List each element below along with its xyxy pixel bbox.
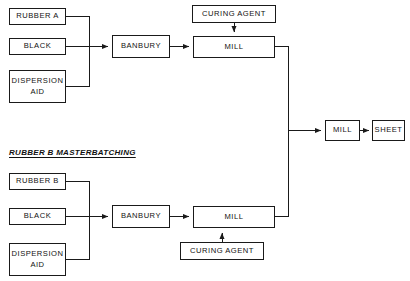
node-rubber-a[interactable]: RUBBER A (9, 8, 66, 25)
node-banbury-bottom[interactable]: BANBURY (112, 205, 170, 228)
node-rubber-b[interactable]: RUBBER B (9, 173, 66, 190)
edge-dispersion-top-to-banbury (66, 47, 89, 87)
edge-dispersion-bottom-to-banbury (66, 217, 89, 260)
node-black-top[interactable]: BLACK (9, 38, 66, 55)
flowchart-canvas: RUBBER A BLACK DISPERSION AID BANBURY CU… (0, 0, 410, 281)
node-mill-final[interactable]: MILL (325, 120, 360, 141)
node-curing-agent-bottom[interactable]: CURING AGENT (180, 242, 264, 260)
edge-mill-bottom-to-trunk (275, 131, 288, 217)
node-dispersion-aid-top[interactable]: DISPERSION AID (9, 70, 66, 103)
section-title-rubber-b-masterbatching: RUBBER B MASTERBATCHING (9, 148, 136, 157)
node-mill-top[interactable]: MILL (193, 36, 275, 58)
node-black-bottom[interactable]: BLACK (9, 208, 66, 225)
node-banbury-top[interactable]: BANBURY (112, 35, 170, 58)
node-curing-agent-top[interactable]: CURING AGENT (192, 5, 276, 23)
node-sheet[interactable]: SHEET (372, 120, 405, 141)
edge-rubber-a-to-banbury (66, 17, 89, 47)
edge-mill-top-to-trunk (275, 47, 288, 131)
node-dispersion-aid-bottom[interactable]: DISPERSION AID (9, 243, 66, 276)
node-mill-bottom[interactable]: MILL (193, 206, 275, 228)
edge-rubber-b-to-banbury (66, 182, 89, 217)
